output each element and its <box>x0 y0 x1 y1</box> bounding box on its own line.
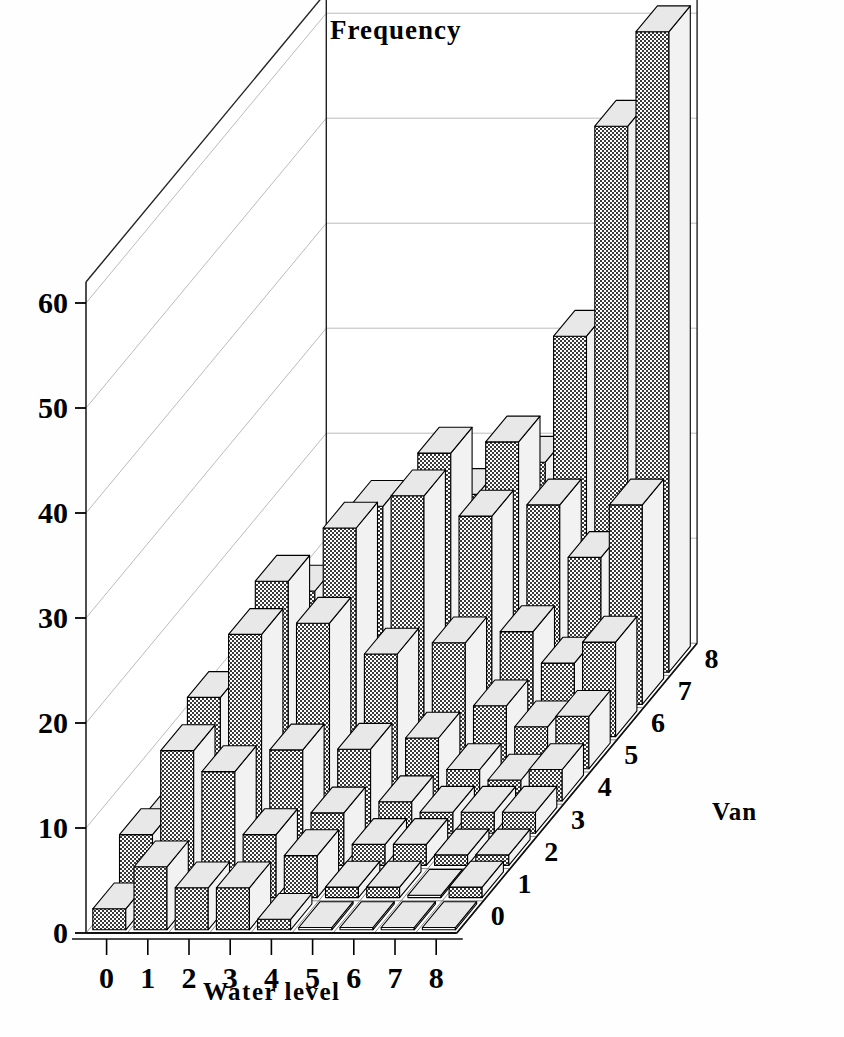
z-tick-label-0: 0 <box>491 900 505 931</box>
chart-title: Frequency <box>330 15 462 46</box>
z-axis-label: Van <box>712 798 757 826</box>
y-tick-label-10: 10 <box>38 811 68 844</box>
y-tick-label-0: 0 <box>53 916 68 949</box>
chart-canvas: 0102030405060012345678012345678 Frequenc… <box>0 0 844 1037</box>
z-tick-label-3: 3 <box>571 804 585 835</box>
y-tick-label-60: 60 <box>38 286 68 319</box>
y-tick-label-30: 30 <box>38 601 68 634</box>
y-tick-label-40: 40 <box>38 496 68 529</box>
bar-front-face <box>435 855 468 866</box>
z-tick-label-7: 7 <box>678 675 692 706</box>
x-axis-label: Water level <box>203 978 341 1006</box>
bar-front-face <box>449 887 482 898</box>
bar-front-face <box>93 909 126 930</box>
x-tick-label-2: 2 <box>182 961 197 994</box>
bar-8-1 <box>449 861 503 897</box>
bar-side-face <box>669 6 690 672</box>
three-d-bar-chart: 0102030405060012345678012345678 <box>0 0 844 1037</box>
bar-front-face <box>258 919 291 930</box>
bar-front-face <box>216 888 249 930</box>
z-tick-label-4: 4 <box>598 771 612 802</box>
bar-side-face <box>642 479 663 704</box>
z-tick-label-5: 5 <box>624 739 638 770</box>
bar-front-face <box>134 867 167 930</box>
x-tick-label-0: 0 <box>99 961 114 994</box>
bar-front-face <box>326 887 359 898</box>
z-tick-label-1: 1 <box>518 868 532 899</box>
x-tick-label-1: 1 <box>140 961 155 994</box>
z-tick-label-8: 8 <box>704 643 718 674</box>
y-tick-label-50: 50 <box>38 391 68 424</box>
y-tick-label-20: 20 <box>38 706 68 739</box>
bar-front-face <box>175 888 208 930</box>
z-tick-label-2: 2 <box>544 836 558 867</box>
bar-front-face <box>284 856 317 898</box>
x-tick-label-6: 6 <box>346 961 361 994</box>
bar-front-face <box>367 887 400 898</box>
z-tick-label-6: 6 <box>651 707 665 738</box>
x-tick-label-7: 7 <box>388 961 403 994</box>
x-tick-label-8: 8 <box>429 961 444 994</box>
